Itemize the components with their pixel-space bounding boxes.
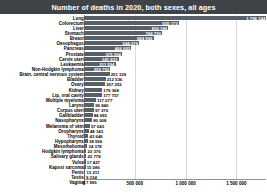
- x-axis-ticks: 0500 0001 000 0001 500 000: [0, 181, 267, 193]
- bar: [84, 88, 102, 92]
- bar: [84, 103, 94, 107]
- bar: [84, 72, 110, 76]
- bar: [84, 113, 93, 117]
- bar: [84, 98, 96, 102]
- bar: [84, 118, 92, 122]
- chart-container: Number of deaths in 2020, both sexes, al…: [0, 0, 267, 196]
- x-tick-label: 1 500 000: [226, 181, 246, 186]
- bar: [84, 16, 266, 20]
- plot-area: Lung1 796 144Colorectum935 173Liver830 1…: [0, 15, 267, 180]
- chart-title-bar: Number of deaths in 2020, both sexes, al…: [0, 0, 267, 14]
- x-axis-line: [84, 179, 266, 180]
- bar: [84, 108, 94, 112]
- bar: [84, 93, 102, 97]
- bar: [84, 77, 106, 81]
- x-tick-label: 1 000 000: [175, 181, 195, 186]
- chart-title: Number of deaths in 2020, both sexes, al…: [51, 3, 215, 12]
- x-tick-label: 0: [83, 181, 86, 186]
- x-tick-label: 500 000: [126, 181, 143, 186]
- bar-rows: Lung1 796 144Colorectum935 173Liver830 1…: [0, 15, 267, 185]
- bar: [84, 82, 105, 86]
